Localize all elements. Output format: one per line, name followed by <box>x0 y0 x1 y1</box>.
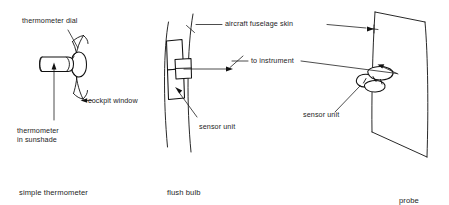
thermometer-sunshade <box>40 57 74 72</box>
label-to-instrument: to instrument <box>251 56 294 65</box>
caption-flush-bulb: flush bulb <box>167 188 201 198</box>
label-thermometer-dial: thermometer dial <box>22 16 78 25</box>
leader-thermometer-dial <box>68 30 78 48</box>
panel-flush-bulb <box>164 14 243 152</box>
panel-simple-thermometer <box>40 30 92 120</box>
diagram-artwork <box>0 0 449 205</box>
label-sensor-unit-right: sensor unit <box>303 110 339 119</box>
label-sensor-unit-middle: sensor unit <box>199 122 235 131</box>
panel-probe <box>335 12 428 157</box>
shared-label-leaders <box>196 25 397 74</box>
diagram-canvas: thermometer dial cockpit window thermome… <box>0 0 449 205</box>
caption-probe: probe <box>399 196 419 205</box>
caption-simple-thermometer: simple thermometer <box>19 188 88 198</box>
leader-sensor-unit-right <box>335 86 360 112</box>
leader-sensor-unit-middle <box>175 87 197 117</box>
label-aircraft-fuselage-skin: aircraft fuselage skin <box>225 19 293 28</box>
arrow-fuselage-skin-right <box>367 27 374 32</box>
fuselage-skin-outer <box>188 14 193 152</box>
leader-to-instrument-angle <box>230 56 243 68</box>
label-cockpit-window: cockpit window <box>88 96 138 105</box>
label-thermometer-in-sunshade-line2: in sunshade <box>17 135 57 144</box>
label-thermometer-in-sunshade-line1: thermometer <box>17 126 59 135</box>
leader-skin-right-dash <box>327 25 366 29</box>
